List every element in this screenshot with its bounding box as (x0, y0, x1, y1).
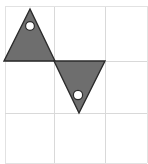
diagram-svg: Two shaded triangles with circular holes… (0, 0, 148, 164)
figure-canvas: Two shaded triangles with circular holes… (0, 0, 148, 164)
lower-circle-hole (73, 90, 82, 99)
upper-circle-hole (26, 22, 35, 31)
